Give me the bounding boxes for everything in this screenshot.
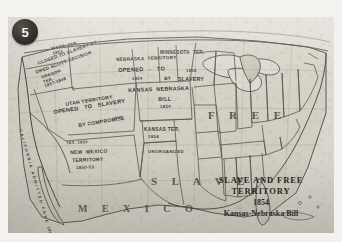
map-plate: F R E E S L A V E M E X I C O WASH. TER.… [8, 17, 334, 233]
figure-number-badge: 5 [12, 19, 38, 45]
figure-number-text: 5 [21, 25, 28, 40]
map-linework [8, 17, 334, 233]
figure-root: F R E E S L A V E M E X I C O WASH. TER.… [0, 0, 342, 242]
